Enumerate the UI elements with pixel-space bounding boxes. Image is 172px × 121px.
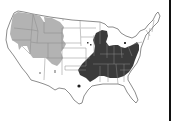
arizona-point — [39, 72, 41, 74]
texas-point — [77, 84, 80, 87]
right-edge-line — [169, 0, 171, 121]
michigan-point — [124, 42, 126, 44]
iowa-point-2 — [90, 44, 92, 46]
iowa-point-1 — [87, 42, 89, 44]
new-mexico-point — [54, 70, 56, 73]
map-svg — [0, 0, 172, 121]
us-distribution-map — [0, 0, 172, 121]
